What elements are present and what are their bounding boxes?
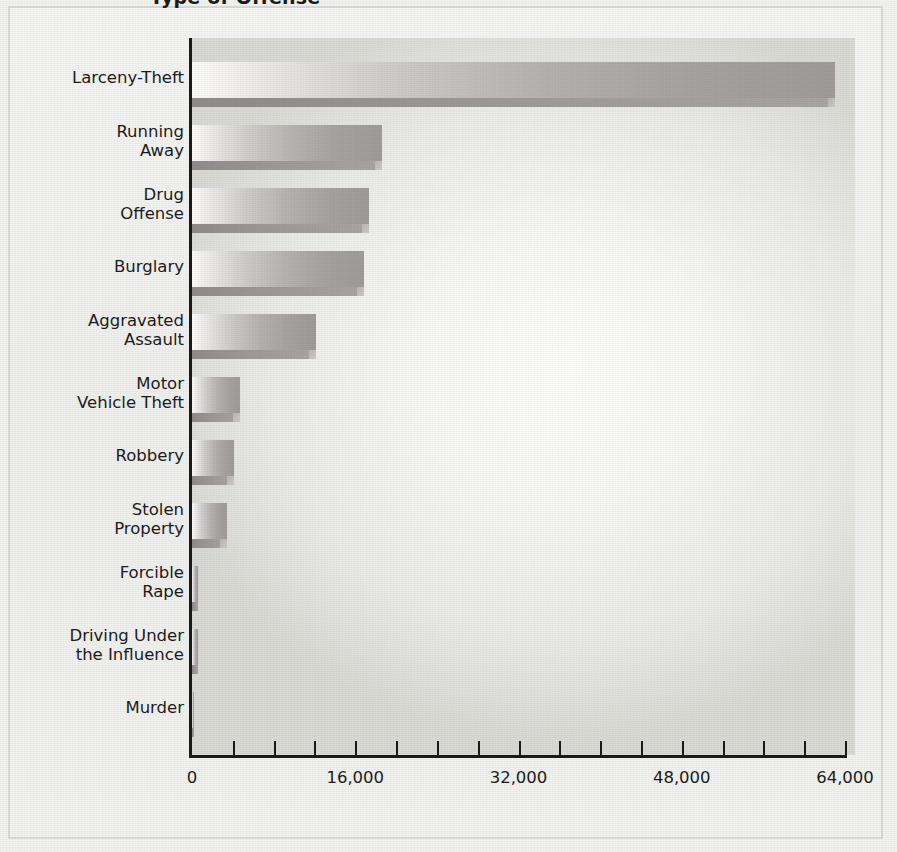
bar-chamfer (233, 413, 240, 422)
x-axis-tick-label: 0 (187, 768, 198, 787)
x-axis-tick (682, 741, 684, 756)
y-axis-label: Stolen Property (114, 500, 184, 539)
bar-body (192, 188, 369, 224)
x-axis-tick (437, 741, 439, 756)
bar-chamfer (375, 161, 382, 170)
bar-shadow (192, 161, 382, 170)
bar (192, 251, 364, 287)
bar-shadow (192, 728, 194, 737)
x-axis-tick-label: 64,000 (816, 768, 874, 787)
bar (192, 188, 369, 224)
y-axis-label: Running Away (116, 122, 184, 161)
bar-body (192, 251, 364, 287)
x-axis-tick-label: 32,000 (490, 768, 548, 787)
bar (192, 566, 198, 602)
x-axis-tick (600, 741, 602, 756)
bar-shadow (192, 287, 364, 296)
x-axis-tick (396, 741, 398, 756)
x-axis-tick (233, 741, 235, 756)
bar-chamfer (309, 350, 316, 359)
x-axis-tick (804, 741, 806, 756)
bar-body (192, 503, 227, 539)
page-title: Type of Offense (150, 0, 570, 8)
figure-container: Type of Offense Larceny-TheftRunning Awa… (0, 0, 897, 852)
x-axis-tick-label: 48,000 (653, 768, 711, 787)
bar-shadow (192, 602, 198, 611)
y-axis-label: Driving Under the Influence (69, 626, 184, 665)
bar-shadow (192, 665, 198, 674)
bar-body (192, 692, 194, 728)
bar-shadow (192, 224, 369, 233)
bar-shadow (192, 350, 316, 359)
bar-shadow (192, 98, 835, 107)
bar-chamfer (357, 287, 364, 296)
y-axis-label: Larceny-Theft (72, 68, 184, 87)
x-axis-tick (641, 741, 643, 756)
y-axis-label: Aggravated Assault (88, 311, 184, 350)
x-axis-tick (478, 741, 480, 756)
bar (192, 125, 382, 161)
bar (192, 440, 234, 476)
x-axis-tick (723, 741, 725, 756)
bar-body (192, 629, 198, 665)
x-axis-tick (845, 741, 847, 756)
y-axis-line (189, 38, 192, 757)
x-axis-tick (519, 741, 521, 756)
x-axis-tick (314, 741, 316, 756)
y-axis-label: Motor Vehicle Theft (77, 374, 184, 413)
x-axis-tick (763, 741, 765, 756)
bar-chamfer (362, 224, 369, 233)
bar (192, 314, 316, 350)
bar-chamfer (227, 476, 234, 485)
x-axis-tick (274, 741, 276, 756)
bar-chamfer (220, 539, 227, 548)
bar-body (192, 566, 198, 602)
bar-chamfer (828, 98, 835, 107)
bar (192, 377, 240, 413)
bar (192, 503, 227, 539)
bar-body (192, 314, 316, 350)
x-axis-tick (559, 741, 561, 756)
bar-body (192, 125, 382, 161)
bar (192, 62, 835, 98)
bar-body (192, 62, 835, 98)
y-axis-label: Robbery (116, 446, 184, 465)
y-axis-label: Drug Offense (120, 185, 184, 224)
x-axis-tick-label: 16,000 (326, 768, 384, 787)
bar-body (192, 440, 234, 476)
y-axis-label: Murder (125, 698, 184, 717)
y-axis-label: Forcible Rape (120, 563, 184, 602)
y-axis-label: Burglary (114, 257, 184, 276)
x-axis-tick (355, 741, 357, 756)
bar (192, 629, 198, 665)
bar (192, 692, 194, 728)
bar-body (192, 377, 240, 413)
